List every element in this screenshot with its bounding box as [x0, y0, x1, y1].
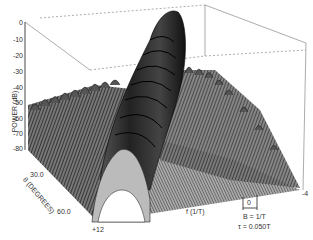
theta-tick-60: 60.0	[57, 208, 71, 215]
z-tick-10: -10	[9, 36, 23, 43]
z-tick-30: -30	[9, 68, 23, 75]
theta-tick-30: 30.0	[30, 171, 44, 178]
bandwidth-label: B = 1/T	[243, 213, 266, 220]
z-tick-80: -80	[9, 145, 23, 152]
z-tick-0: 0	[9, 19, 23, 26]
z-axis-label: POWER (dB)	[11, 91, 18, 133]
z-tick-20: -20	[9, 52, 23, 59]
f-tick-plus12: +12	[92, 226, 104, 233]
f-axis-label: f (1/T)	[186, 208, 205, 215]
bandwidth-box-label: 0	[247, 199, 251, 206]
f-tick-minus4: -4	[302, 190, 308, 197]
tau-label: τ = 0.050T	[238, 223, 271, 230]
